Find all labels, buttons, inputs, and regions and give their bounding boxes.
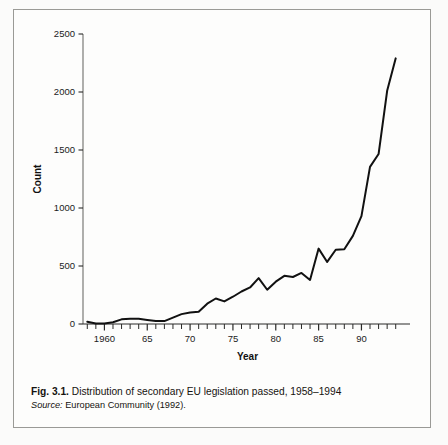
y-tick-label: 500 [59,260,75,271]
y-tick-label: 1500 [54,144,75,155]
line-chart: 05001000150020002500Count196065707580859… [14,10,432,370]
x-tick-label: 75 [228,333,239,344]
x-tick-label: 85 [313,333,324,344]
x-tick-label: 70 [185,333,196,344]
caption-primary: Fig. 3.1. Distribution of secondary EU l… [31,385,431,398]
plot-area: 05001000150020002500Count196065707580859… [14,10,432,370]
source-value: European Community (1992). [65,400,186,410]
data-series-line [87,58,395,323]
y-tick-label: 2000 [54,86,75,97]
y-axis-title: Count [32,164,43,194]
x-tick-label: 65 [142,333,153,344]
caption-description: Distribution of secondary EU legislation… [72,386,342,397]
x-axis-title: Year [237,351,258,362]
caption-source: Source: European Community (1992). [31,399,431,412]
y-tick-label: 1000 [54,202,75,213]
caption-figure-number: Fig. 3.1. [31,386,69,397]
figure-frame: 05001000150020002500Count196065707580859… [13,9,431,428]
y-tick-label: 0 [70,318,75,329]
figure-root: 05001000150020002500Count196065707580859… [0,0,448,445]
x-tick-label: 90 [356,333,367,344]
x-tick-label: 1960 [94,333,115,344]
figure-caption: Fig. 3.1. Distribution of secondary EU l… [31,385,431,412]
y-tick-label: 2500 [54,28,75,39]
x-tick-label: 80 [270,333,281,344]
source-label: Source: [31,400,63,410]
